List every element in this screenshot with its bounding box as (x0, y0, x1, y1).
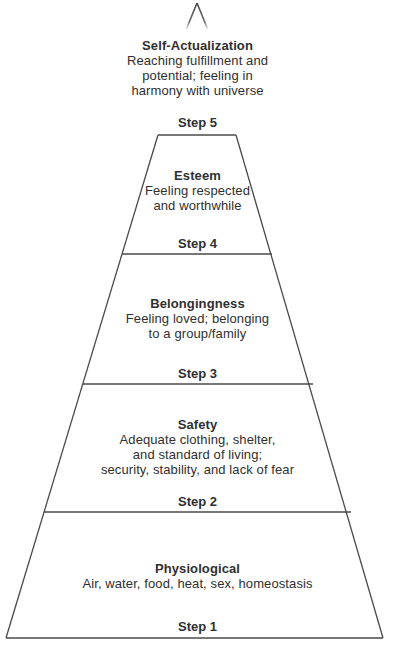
pyramid-diagram: Self-Actualization Reaching fulfillment … (0, 0, 395, 647)
step-label-2: Step 2 (0, 494, 395, 509)
level-safety-text: Safety Adequate clothing, shelter, and s… (0, 417, 395, 477)
apex-left-line (186, 3, 197, 30)
level-belongingness-text: Belongingness Feeling loved; belonging t… (0, 296, 395, 341)
level-self-actualization-title: Self-Actualization (0, 38, 395, 53)
level-safety-description: Adequate clothing, shelter, and standard… (0, 432, 395, 477)
apex-right-line (197, 3, 208, 30)
level-esteem-description: Feeling respected and worthwhile (0, 183, 395, 213)
step-label-4: Step 4 (0, 236, 395, 251)
level-self-actualization-description: Reaching fulfillment and potential; feel… (0, 53, 395, 98)
level-belongingness-description: Feeling loved; belonging to a group/fami… (0, 311, 395, 341)
level-self-actualization-text: Self-Actualization Reaching fulfillment … (0, 38, 395, 98)
level-esteem-title: Esteem (0, 168, 395, 183)
level-physiological-description: Air, water, food, heat, sex, homeostasis (0, 576, 395, 591)
level-physiological-text: Physiological Air, water, food, heat, se… (0, 561, 395, 591)
level-safety-title: Safety (0, 417, 395, 432)
level-belongingness-title: Belongingness (0, 296, 395, 311)
step-label-3: Step 3 (0, 366, 395, 381)
step-label-5: Step 5 (0, 115, 395, 130)
level-physiological-title: Physiological (0, 561, 395, 576)
level-esteem-text: Esteem Feeling respected and worthwhile (0, 168, 395, 213)
step-label-1: Step 1 (0, 619, 395, 634)
